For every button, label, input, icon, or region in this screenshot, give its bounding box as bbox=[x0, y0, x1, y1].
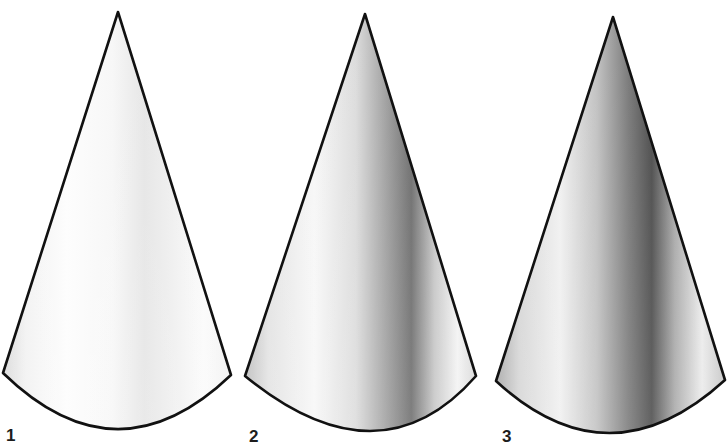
cone-label-1: 1 bbox=[6, 427, 15, 444]
cone-highlight bbox=[496, 17, 725, 433]
cone-label-3: 3 bbox=[502, 428, 511, 445]
cone-1 bbox=[3, 12, 231, 429]
cone-label-2: 2 bbox=[249, 428, 258, 445]
cone-2 bbox=[245, 14, 476, 431]
cone-highlight bbox=[3, 12, 231, 429]
cone-highlight bbox=[245, 14, 476, 431]
cones-diagram bbox=[0, 0, 727, 447]
cone-3 bbox=[496, 17, 725, 433]
